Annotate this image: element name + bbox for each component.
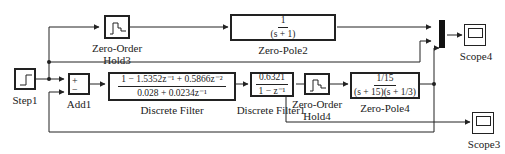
df-transfer-function: 1 − 1.5352z⁻¹ + 0.5866z⁻² 0.028 + 0.0234… [110,74,234,99]
zero-pole2-block[interactable]: 1 (s + 1) [230,14,336,41]
zoh3-label-line2: Hold3 [92,54,142,66]
zp2-transfer-function: 1 (s + 1) [232,16,334,39]
zp4-label: Zero-Pole4 [350,102,420,114]
df1-transfer-function: 0.6321 1 − z⁻¹ [252,74,292,95]
zp2-denominator: (s + 1) [268,28,299,40]
add-label: Add1 [62,98,96,110]
zoh3-label-line1: Zero-Order [92,42,142,54]
df-numerator: 1 − 1.5352z⁻¹ + 0.5866z⁻² [118,74,225,87]
zoh4-label-line2: Hold4 [292,110,342,122]
zp2-numerator: 1 [278,15,289,28]
df-denominator: 0.028 + 0.0234z⁻¹ [134,87,210,99]
scope3-label: Scope3 [464,138,504,150]
zp2-label: Zero-Pole2 [243,44,323,56]
step-icon [17,71,35,89]
minus-sign: − [72,85,78,95]
scope-icon [476,116,491,126]
zero-order-hold4-block[interactable] [304,73,330,95]
zp4-numerator: 1/15 [374,73,397,86]
scope4-block[interactable] [464,24,486,46]
df1-numerator: 0.6321 [256,72,288,85]
discrete-filter-block[interactable]: 1 − 1.5352z⁻¹ + 0.5866z⁻² 0.028 + 0.0234… [108,72,236,101]
simulink-diagram: Step1 + − Add1 Zero-Order Hold3 1 (s + 1… [0,0,505,154]
discrete-filter1-block[interactable]: 0.6321 1 − z⁻¹ [250,72,294,97]
step-block[interactable] [14,68,36,90]
zero-pole4-block[interactable]: 1/15 (s + 15)(s + 1/3) [350,72,420,99]
df-label: Discrete Filter [122,104,222,116]
add-block[interactable]: + − [68,73,90,95]
staircase-icon [307,76,329,94]
zoh4-label-line1: Zero-Order [292,98,342,110]
zp4-transfer-function: 1/15 (s + 15)(s + 1/3) [352,74,418,97]
mux-block[interactable] [439,20,445,48]
zero-order-hold3-block[interactable] [104,15,130,39]
scope-icon [468,28,483,38]
scope4-label: Scope4 [456,50,496,62]
scope3-block[interactable] [472,112,494,134]
df1-denominator: 1 − z⁻¹ [256,85,289,97]
staircase-icon [107,18,129,38]
zp4-denominator: (s + 15)(s + 1/3) [351,86,419,98]
step-label: Step1 [8,94,42,106]
